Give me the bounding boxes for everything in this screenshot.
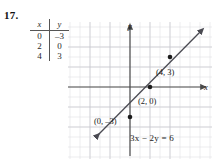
column-header-y: y (50, 19, 70, 31)
y-axis-label: y (128, 22, 132, 31)
point-4-3 (168, 55, 173, 60)
cell-x: 0 (30, 31, 50, 42)
coordinate-graph: (4, 3) (2, 0) (0, –3) 3x − 2y = 6 y x (68, 22, 212, 159)
x-axis-label: x (204, 83, 208, 92)
point-0-neg3 (128, 115, 133, 120)
equation-label: 3x − 2y = 6 (130, 134, 174, 143)
point-label-2-0: (2, 0) (138, 97, 156, 106)
point-label-4-3: (4, 3) (156, 68, 174, 77)
cell-x: 4 (30, 51, 50, 61)
point-2-0 (148, 85, 153, 90)
column-header-x: x (30, 19, 50, 31)
value-table: x y 0 –3 2 0 4 3 (30, 19, 69, 61)
table-row: 0 –3 (30, 31, 69, 42)
cell-y: 3 (50, 51, 70, 61)
table-header-row: x y (30, 19, 69, 31)
value-table-body: 0 –3 2 0 4 3 (30, 31, 69, 62)
value-table-header: x y (30, 19, 69, 31)
cell-y: –3 (50, 31, 70, 42)
table-row: 4 3 (30, 51, 69, 61)
cell-y: 0 (50, 41, 70, 51)
point-label-0-neg3: (0, –3) (94, 117, 117, 126)
cell-x: 2 (30, 41, 50, 51)
problem-number: 17. (4, 9, 18, 21)
table-row: 2 0 (30, 41, 69, 51)
worksheet-page: 17. x y 0 –3 2 0 4 3 (0, 0, 218, 164)
